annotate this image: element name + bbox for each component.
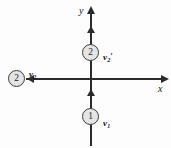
x-axis-line [26, 78, 166, 80]
y-axis-label: y [79, 6, 83, 16]
velocity-v2-prime-arrow-icon [87, 26, 95, 33]
velocity-v2-subscript: 2 [33, 74, 36, 80]
mass-body-1-bottom-label: 1 [88, 112, 93, 122]
mass-body-2-left-label: 2 [14, 74, 19, 84]
velocity-v1-label: v1 [103, 113, 110, 129]
velocity-v1-arrow-icon [87, 89, 95, 96]
y-axis-arrow-icon [87, 6, 95, 14]
physics-collision-diagram: 2 1 2 v2′ v1 v2 x y [0, 0, 171, 148]
velocity-v2-prime-label: v2′ [103, 47, 113, 63]
velocity-v2-label: v2 [29, 64, 36, 80]
velocity-v1-subscript: 1 [107, 123, 110, 129]
x-axis-label: x [158, 84, 162, 94]
mass-body-1-bottom: 1 [82, 108, 99, 125]
mass-body-2-top: 2 [82, 44, 99, 61]
velocity-v2-prime-mark: ′ [110, 51, 113, 61]
x-axis-arrow-icon [161, 75, 169, 83]
mass-body-2-left: 2 [8, 70, 25, 87]
mass-body-2-top-label: 2 [88, 48, 93, 58]
